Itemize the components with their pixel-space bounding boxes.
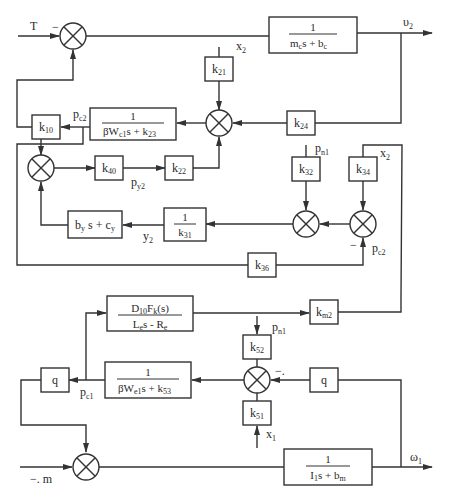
label-v2: υ2 [403, 15, 413, 31]
sum-left-mid [28, 155, 54, 181]
block-km2: km2 [310, 300, 338, 324]
svg-text:1: 1 [145, 366, 151, 378]
block-diagram: T − 1 mcs + bc υ2 x2 k21 k24 1 βWc1s + k… [0, 0, 452, 501]
sum-m [73, 454, 99, 480]
label-pn1-mid: pn1 [315, 141, 329, 157]
block-q-left: q [41, 368, 69, 392]
label-x1: x1 [266, 427, 276, 443]
label-pc2-left: pc2 [73, 107, 87, 123]
block-k24: k24 [287, 111, 315, 135]
svg-text:Les - Re: Les - Re [133, 318, 168, 332]
block-dfk: D10Fk(s) Les - Re [107, 296, 193, 332]
svg-text:q: q [321, 373, 327, 387]
svg-text:1: 1 [310, 21, 316, 33]
svg-text:q: q [52, 373, 58, 387]
sign-minus-T: − [52, 20, 59, 34]
wire-bycy-to-sum [41, 182, 68, 225]
svg-text:1: 1 [182, 211, 188, 223]
svg-text:D10Fk(s): D10Fk(s) [131, 302, 169, 316]
label-pn1-low: pn1 [272, 320, 286, 336]
block-k21: k21 [205, 57, 233, 81]
block-q-right: q [310, 368, 338, 392]
sum-center [206, 110, 232, 136]
block-k32: k32 [292, 157, 320, 181]
svg-text:by s + cy: by s + cy [75, 218, 115, 233]
svg-text:1: 1 [130, 110, 136, 122]
label-m: −. m [30, 472, 53, 486]
label-y2: y2 [143, 229, 153, 245]
block-k34: k34 [349, 157, 377, 181]
label-pc1: pc1 [80, 385, 94, 401]
wire-km2-up [338, 297, 401, 312]
svg-text:mcs + bc: mcs + bc [290, 37, 328, 51]
label-pc2-right: pc2 [372, 241, 386, 257]
block-k31: 1 k31 [164, 208, 206, 241]
sum-T [60, 23, 86, 49]
block-bw-e1-k53: 1 βWe1s + k53 [105, 362, 191, 398]
sum-k34 [350, 211, 376, 237]
block-bycy: by s + cy [68, 211, 122, 238]
label-py2: py2 [131, 175, 145, 191]
block-i1bm: 1 I1s + bm [284, 449, 372, 485]
block-k51: k51 [243, 401, 271, 425]
block-k40: k40 [95, 156, 123, 180]
block-bw-c1-k23: 1 βWc1s + k23 [90, 108, 176, 140]
block-k52: k52 [243, 335, 271, 359]
label-x2-top: x2 [236, 39, 246, 55]
wire-pc2-to-k36 [17, 127, 248, 265]
block-k22: k22 [165, 156, 193, 180]
wire-pc1-to-dfk [86, 313, 106, 380]
sign-minus-q: −. [275, 364, 285, 378]
sum-k32 [293, 211, 319, 237]
label-T: T [30, 19, 38, 33]
block-k10: k10 [32, 115, 60, 139]
label-x2-right: x2 [380, 146, 390, 162]
block-k36: k36 [248, 253, 276, 277]
block-mc: 1 mcs + bc [269, 17, 357, 53]
svg-text:1: 1 [325, 453, 331, 465]
label-w1: ω1 [410, 450, 422, 466]
wire-k22-to-sum-center [193, 137, 219, 168]
sign-minus-pc2: − [350, 238, 357, 252]
sum-lower [244, 367, 270, 393]
